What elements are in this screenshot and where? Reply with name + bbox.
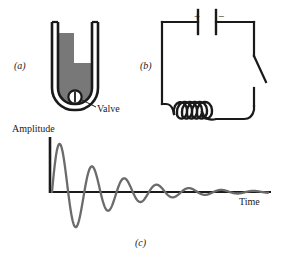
plot-x-axis-label: Time — [239, 197, 260, 207]
wire-coil-left-lead — [162, 104, 174, 114]
panel-c-plot — [50, 137, 271, 227]
panel-b-label: (b) — [140, 61, 152, 71]
battery-plus-label: + — [194, 11, 200, 22]
panel-c-label: (c) — [135, 238, 146, 248]
panel-b-circuit — [162, 10, 266, 120]
panel-a-label: (a) — [14, 61, 26, 71]
utube-air-gap — [74, 20, 98, 63]
switch-blade[interactable] — [254, 56, 266, 82]
valve-annotation-label: Valve — [97, 104, 120, 114]
inductor-coil — [174, 102, 212, 119]
physics-figure: (a) (b) (c) Valve Amplitude Time + − — [0, 0, 281, 262]
panel-a-utube — [52, 20, 98, 113]
plot-y-axis-label: Amplitude — [12, 124, 55, 134]
damped-oscillation-curve — [52, 144, 268, 227]
battery-minus-label: − — [218, 11, 224, 22]
